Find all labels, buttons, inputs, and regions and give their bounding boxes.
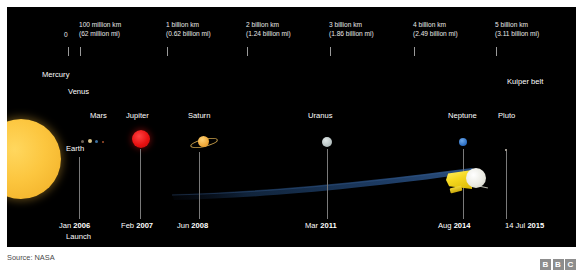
label-kuiper-belt: Kuiper belt: [507, 77, 543, 86]
label-venus: Venus: [68, 87, 89, 96]
label-neptune: Neptune: [448, 111, 477, 120]
scale-tick-6: [496, 47, 497, 56]
milestone-year-4: 2014: [454, 221, 471, 230]
leader-line-jupiter: [140, 149, 141, 219]
venus-graphic: [88, 139, 92, 143]
scale-tick-4: [330, 47, 331, 56]
bbc-logo-letter-3: C: [565, 259, 576, 270]
leader-line-uranus: [327, 149, 328, 219]
milestone-year-1: 2007: [136, 221, 153, 230]
label-uranus: Uranus: [308, 111, 332, 120]
chart-panel: 0 100 million km (62 million mi) 1 billi…: [7, 7, 576, 247]
scale-label-1b-km: 1 billion km: [166, 21, 199, 29]
new-horizons-spacecraft-icon: [444, 165, 490, 199]
scale-label-100m-km: 100 million km: [79, 21, 121, 29]
jupiter-graphic: [132, 130, 150, 148]
label-saturn: Saturn: [188, 111, 210, 120]
scale-label-4b-km: 4 billion km: [413, 21, 446, 29]
scale-label-100m-mi: (62 million mi): [79, 30, 120, 38]
scale-label-4b-mi: (2.49 billion mi): [413, 30, 458, 38]
scale-label-1b-mi: (0.62 billion mi): [166, 30, 211, 38]
label-pluto: Pluto: [498, 111, 515, 120]
leader-line-earth: [79, 157, 80, 219]
saturn-graphic: [190, 134, 216, 150]
milestone-date-launch: Jan 2006: [59, 221, 90, 230]
earth-graphic: [95, 140, 98, 143]
infographic-root: 0 100 million km (62 million mi) 1 billi…: [0, 0, 583, 279]
scale-label-5b-mi: (3.11 billion mi): [495, 30, 539, 38]
milestone-year-2: 2008: [191, 221, 208, 230]
scale-tick-5: [414, 47, 415, 56]
mercury-graphic: [81, 140, 84, 143]
scale-label-3b-km: 3 billion km: [329, 21, 362, 29]
scale-tick-1: [80, 47, 81, 56]
scale-tick-2: [167, 47, 168, 56]
milestone-year-3: 2011: [320, 221, 336, 230]
sun-graphic: [7, 119, 61, 199]
milestone-month-5: 14 Jul: [505, 221, 527, 230]
milestone-date-pluto: 14 Jul 2015: [505, 221, 544, 230]
label-earth: Earth: [66, 144, 84, 153]
milestone-date-jupiter: Feb 2007: [121, 221, 153, 230]
milestone-date-neptune: Aug 2014: [438, 221, 471, 230]
scale-label-5b-km: 5 billion km: [495, 21, 528, 29]
milestone-date-saturn: Jun 2008: [177, 221, 208, 230]
scale-tick-0: [68, 47, 69, 56]
saturn-disc: [198, 136, 209, 147]
milestone-year-0: 2006: [73, 221, 90, 230]
neptune-graphic: [459, 138, 467, 146]
scale-label-2b-km: 2 billion km: [246, 21, 279, 29]
label-mercury: Mercury: [42, 70, 69, 79]
mars-graphic: [102, 141, 104, 143]
uranus-graphic: [322, 137, 332, 147]
bbc-logo-letter-2: B: [553, 259, 564, 270]
milestone-month-3: Mar: [305, 221, 320, 230]
source-note: Source: NASA: [7, 253, 55, 262]
spacecraft-rtg: [450, 186, 463, 194]
milestone-note-launch: Launch: [66, 232, 91, 241]
milestone-month-0: Jan: [59, 221, 73, 230]
scale-label-2b-mi: (1.24 billion mi): [246, 30, 291, 38]
milestone-month-2: Jun: [177, 221, 191, 230]
bbc-logo-letter-1: B: [540, 259, 551, 270]
milestone-date-uranus: Mar 2011: [305, 221, 337, 230]
milestone-month-1: Feb: [121, 221, 136, 230]
milestone-month-4: Aug: [438, 221, 454, 230]
scale-label-3b-mi: (1.86 billion mi): [329, 30, 374, 38]
bbc-logo: B B C: [540, 259, 576, 270]
leader-line-saturn: [199, 152, 200, 219]
scale-zero-label: 0: [64, 31, 68, 38]
leader-line-pluto: [506, 151, 507, 219]
label-mars: Mars: [90, 111, 107, 120]
scale-tick-3: [247, 47, 248, 56]
spacecraft-dish-antenna: [466, 168, 486, 188]
label-jupiter: Jupiter: [126, 111, 149, 120]
milestone-year-5: 2015: [527, 221, 544, 230]
